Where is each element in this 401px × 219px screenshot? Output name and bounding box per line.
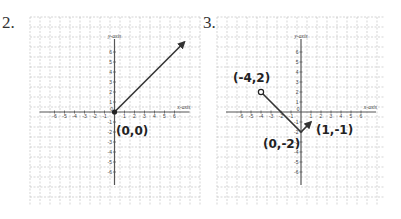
x-axis-label: x-axis — [176, 104, 190, 110]
x-tick-label: 6 — [173, 113, 176, 119]
x-tick-label: 3 — [143, 113, 146, 119]
y-tick-label: -2 — [108, 129, 113, 135]
svg-text:0: 0 — [297, 106, 300, 112]
y-axis-label: y-axis — [293, 33, 307, 39]
x-tick-label: -2 — [92, 113, 97, 119]
x-tick-label: -6 — [239, 113, 244, 119]
point-annotation: (0,0) — [116, 124, 148, 138]
y-tick-label: 1 — [109, 99, 112, 105]
y-tick-label: -4 — [108, 149, 113, 155]
x-tick-label: -1 — [289, 113, 294, 119]
y-tick-label: 6 — [296, 49, 299, 55]
x-tick-label: 2 — [133, 113, 136, 119]
x-tick-label: 5 — [163, 113, 166, 119]
y-tick-label: -1 — [108, 119, 113, 125]
x-axis-label: x-axis — [363, 104, 377, 110]
x-tick-label: -3 — [82, 113, 87, 119]
y-tick-label: 4 — [109, 69, 112, 75]
y-tick-label: -3 — [108, 139, 113, 145]
worksheet-graphs: -6-5-4-3-2-1123456654321-1-2-3-4-5-60y-a… — [0, 0, 401, 219]
y-tick-label: 5 — [296, 59, 299, 65]
x-tick-label: -5 — [62, 113, 67, 119]
x-tick-label: 4 — [153, 113, 156, 119]
y-tick-label: -6 — [108, 169, 113, 175]
y-tick-label: 2 — [109, 89, 112, 95]
graph-2: -6-5-4-3-2-1123456654321-1-2-3-4-5-60y-a… — [30, 17, 200, 205]
y-tick-label: 3 — [296, 79, 299, 85]
y-tick-label: 1 — [296, 99, 299, 105]
x-tick-label: 1 — [310, 113, 313, 119]
x-tick-label: 3 — [330, 113, 333, 119]
y-tick-label: 6 — [109, 49, 112, 55]
x-tick-label: -4 — [72, 113, 77, 119]
problem-number-3: 3. — [203, 13, 216, 32]
x-tick-label: 4 — [340, 113, 343, 119]
y-tick-label: -5 — [294, 159, 299, 165]
x-tick-label: -1 — [102, 113, 107, 119]
closed-endpoint — [112, 109, 117, 114]
y-tick-label: -5 — [108, 159, 113, 165]
y-tick-label: 4 — [296, 69, 299, 75]
point-annotation: (0,-2) — [263, 137, 300, 151]
point-annotation: (-4,2) — [233, 71, 270, 85]
y-tick-label: 5 — [109, 59, 112, 65]
x-tick-label: -4 — [259, 113, 264, 119]
x-tick-label: -6 — [52, 113, 57, 119]
x-tick-label: 5 — [350, 113, 353, 119]
x-tick-label: 1 — [123, 113, 126, 119]
y-tick-label: 3 — [109, 79, 112, 85]
y-tick-label: -6 — [294, 169, 299, 175]
x-tick-label: -3 — [269, 113, 274, 119]
problem-number-2: 2. — [2, 13, 15, 32]
y-tick-label: -1 — [294, 119, 299, 125]
y-axis-label: y-axis — [107, 33, 121, 39]
x-tick-label: 2 — [320, 113, 323, 119]
open-endpoint — [258, 89, 263, 94]
point-annotation: (1,-1) — [316, 123, 353, 137]
x-tick-label: -5 — [249, 113, 254, 119]
y-tick-label: 2 — [296, 89, 299, 95]
graph-3: -6-5-4-3-2-1123456654321-1-2-3-4-5-60y-a… — [217, 17, 385, 205]
x-tick-label: 6 — [360, 113, 363, 119]
